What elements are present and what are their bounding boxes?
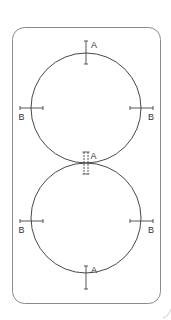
bottom-a-label: A <box>91 265 97 275</box>
junction-a-label: A <box>91 151 97 161</box>
top-a-marker <box>84 41 88 64</box>
bottom-left-b-label: B <box>19 225 25 235</box>
outer-frame <box>13 28 161 304</box>
diagram-canvas: A A B B B B A <box>0 0 171 320</box>
top-a-label: A <box>91 40 97 50</box>
top-left-b-label: B <box>19 112 25 122</box>
corner-mark <box>163 309 171 318</box>
top-right-b-marker <box>130 106 153 110</box>
bottom-right-b-label: B <box>148 225 154 235</box>
top-left-b-marker <box>20 106 43 110</box>
bottom-right-b-marker <box>130 219 153 223</box>
top-circle <box>31 53 141 163</box>
bottom-a-marker <box>84 266 88 289</box>
bottom-circle <box>31 163 141 273</box>
top-right-b-label: B <box>148 112 154 122</box>
